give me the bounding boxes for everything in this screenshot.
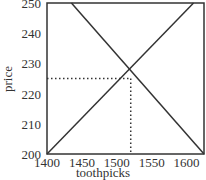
y-tick-label: 240: [22, 26, 42, 41]
x-tick-label: 1600: [174, 155, 200, 170]
equilibrium-guides: [47, 79, 131, 155]
plot-frame: [47, 3, 204, 154]
y-tick-label: 210: [22, 117, 42, 132]
y-tick-label: 250: [22, 0, 42, 11]
y-axis-label: price: [0, 66, 15, 92]
series-lines: [47, 3, 204, 154]
supply-demand-chart: 200210220230240250 14001450150015501600 …: [0, 0, 206, 180]
y-tick-label: 230: [22, 56, 42, 71]
y-axis-ticks: 200210220230240250: [22, 0, 42, 162]
y-tick-label: 220: [22, 87, 42, 102]
x-axis-label: toothpicks: [76, 165, 130, 180]
x-tick-label: 1550: [139, 155, 165, 170]
x-tick-label: 1400: [34, 155, 60, 170]
